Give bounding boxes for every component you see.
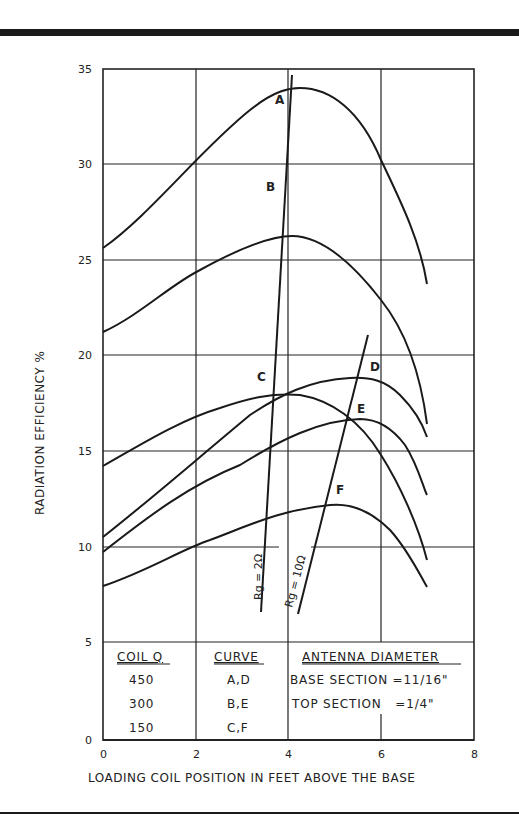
table-cell: 450 xyxy=(129,673,154,687)
y-tick: 35 xyxy=(78,63,92,76)
table-header-coil-q: COIL Q xyxy=(117,650,163,664)
y-tick: 0 xyxy=(85,734,92,747)
y-tick: 30 xyxy=(78,158,92,171)
y-tick: 15 xyxy=(78,445,92,458)
y-tick: 10 xyxy=(78,541,92,554)
curve-label-d: D xyxy=(370,360,380,374)
rg-10-ohm-line xyxy=(298,335,368,614)
y-tick: 20 xyxy=(78,349,92,362)
rg-lines xyxy=(261,75,368,614)
curve-d xyxy=(103,378,427,537)
y-axis-ticks: 35 30 25 20 15 10 5 0 xyxy=(78,63,92,747)
y-tick: 25 xyxy=(78,254,92,267)
y-axis-label: RADIATION EFFICIENCY % xyxy=(33,351,47,515)
table-cell: B,E xyxy=(227,697,249,711)
y-tick: 5 xyxy=(85,636,92,649)
x-tick: 8 xyxy=(471,748,478,761)
curves xyxy=(103,88,427,587)
table-cell: 300 xyxy=(129,697,154,711)
table-cell: A,D xyxy=(227,673,251,687)
legend-table: COIL Q CURVE ANTENNA DIAMETER 450 A,D BA… xyxy=(117,650,461,735)
curve-label-b: B xyxy=(266,180,275,194)
x-tick: 4 xyxy=(285,748,292,761)
table-cell: BASE SECTION =11/16" xyxy=(290,673,448,687)
efficiency-chart: 35 30 25 20 15 10 5 0 0 2 4 6 8 RADIATIO… xyxy=(0,0,519,833)
table-header-antenna-diameter: ANTENNA DIAMETER xyxy=(302,650,439,664)
table-header-curve: CURVE xyxy=(214,650,259,664)
curve-label-c: C xyxy=(257,370,266,384)
table-cell: C,F xyxy=(227,721,249,735)
curve-label-f: F xyxy=(336,483,344,497)
x-tick: 6 xyxy=(378,748,385,761)
curve-a xyxy=(103,88,427,284)
grid xyxy=(103,69,474,740)
x-tick: 0 xyxy=(100,748,107,761)
x-axis-label: LOADING COIL POSITION IN FEET ABOVE THE … xyxy=(88,771,415,785)
rg-2-ohm-line xyxy=(261,75,292,612)
x-axis-ticks: 0 2 4 6 8 xyxy=(100,748,478,761)
table-cell: 150 xyxy=(129,721,154,735)
x-tick: 2 xyxy=(193,748,200,761)
rg-2-ohm-label: Rg = 2Ω xyxy=(252,554,265,600)
curve-label-e: E xyxy=(357,402,365,416)
table-cell: TOP SECTION =1/4" xyxy=(291,697,434,711)
curve-label-a: A xyxy=(275,93,285,107)
rg-10-ohm-label: Rg = 10Ω xyxy=(282,554,308,609)
